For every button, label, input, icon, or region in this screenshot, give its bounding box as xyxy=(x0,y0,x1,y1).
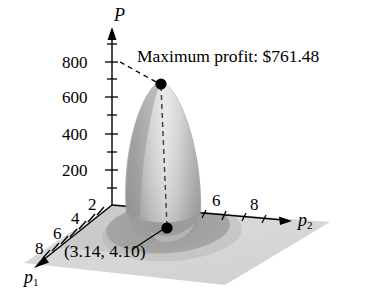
p1-axis-tick-4: 4 xyxy=(71,210,80,227)
p-axis-tick-400: 400 xyxy=(62,126,88,143)
p-axis-tick-200: 200 xyxy=(62,162,88,179)
p1-axis-tick-6: 6 xyxy=(53,225,62,242)
p2-axis-label: p2 xyxy=(298,211,313,229)
maximum-profit-annotation: Maximum profit: $761.48 xyxy=(137,48,319,66)
p-axis-label: P xyxy=(114,6,125,24)
p-axis-tick-800: 800 xyxy=(62,54,88,71)
p-axis-arrowhead xyxy=(108,27,117,40)
critical-point-annotation: (3.14, 4.10) xyxy=(64,243,146,261)
p1-axis-tick-2: 2 xyxy=(88,196,97,213)
p1-axis-label: p1 xyxy=(24,268,39,286)
p-axis-tick-600: 600 xyxy=(62,89,88,106)
apex-point-marker xyxy=(155,78,166,89)
p1-axis-label-base: p xyxy=(24,267,33,287)
p2-axis-label-subscript: 2 xyxy=(307,219,313,231)
p2-axis-label-base: p xyxy=(298,210,307,230)
p1-axis-label-subscript: 1 xyxy=(33,276,39,288)
profit-surface-group xyxy=(125,80,201,242)
base-point-marker xyxy=(161,222,172,233)
p2-axis-tick-8: 8 xyxy=(250,196,259,213)
p1-axis-tick-8: 8 xyxy=(35,240,44,257)
profit-surface-figure: P 800 600 400 200 2 4 6 8 p1 6 8 p2 Maxi… xyxy=(0,0,371,305)
p2-axis-tick-6: 6 xyxy=(212,192,221,209)
